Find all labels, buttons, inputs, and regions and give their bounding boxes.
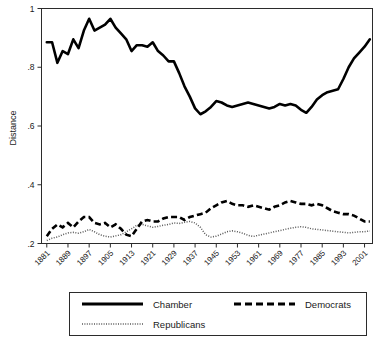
figure-background: [0, 0, 392, 345]
legend-label-chamber: Chamber: [153, 299, 192, 310]
y-tick-label: .4: [27, 180, 34, 190]
legend-label-democrats: Democrats: [305, 299, 351, 310]
legend-label-republicans: Republicans: [153, 319, 206, 330]
distance-line-chart: Distance 1.8.6.4.2 188118891897190519131…: [0, 0, 392, 345]
y-axis-title: Distance: [8, 110, 18, 145]
y-tick-label: 1: [30, 4, 35, 14]
chart-figure: Distance 1.8.6.4.2 188118891897190519131…: [0, 0, 392, 345]
y-tick-label: .6: [27, 121, 34, 131]
y-tick-label: .8: [27, 62, 34, 72]
y-tick-label: .2: [27, 239, 34, 249]
